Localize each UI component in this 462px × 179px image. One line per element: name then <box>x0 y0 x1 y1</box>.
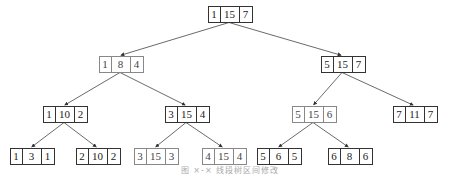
tree-node: 1102 <box>43 106 88 123</box>
tree-node: 184 <box>99 56 144 73</box>
tree-node: 5157 <box>321 56 366 73</box>
node-right-value: 4 <box>197 107 209 122</box>
node-left-value: 1 <box>11 149 23 164</box>
node-mid-value: 15 <box>215 149 234 164</box>
node-right-value: 4 <box>131 57 143 72</box>
tree-edge <box>342 73 413 106</box>
tree-edge <box>32 123 64 147</box>
node-left-value: 1 <box>44 107 56 122</box>
node-mid-value: 15 <box>334 57 353 72</box>
tree-edge <box>186 123 222 147</box>
tree-node: 1157 <box>208 6 253 23</box>
node-left-value: 6 <box>329 149 341 164</box>
tree-edge <box>121 23 229 56</box>
node-right-value: 6 <box>360 149 372 164</box>
tree-edge <box>314 73 342 105</box>
node-mid-value: 8 <box>341 149 360 164</box>
node-right-value: 3 <box>166 149 178 164</box>
tree-edge <box>313 123 348 147</box>
tree-node: 2102 <box>76 148 121 165</box>
node-mid-value: 10 <box>89 149 108 164</box>
tree-edge <box>229 23 341 56</box>
node-mid-value: 10 <box>56 107 75 122</box>
node-left-value: 7 <box>394 107 406 122</box>
tree-node: 3153 <box>134 148 179 165</box>
tree-node: 4154 <box>202 148 247 165</box>
tree-edge <box>64 123 96 147</box>
node-mid-value: 15 <box>147 149 166 164</box>
node-right-value: 5 <box>289 149 301 164</box>
tree-edge <box>120 73 185 106</box>
node-mid-value: 15 <box>178 107 197 122</box>
node-mid-value: 11 <box>406 107 425 122</box>
node-left-value: 3 <box>135 149 147 164</box>
node-right-value: 6 <box>324 107 336 122</box>
node-mid-value: 8 <box>112 57 131 72</box>
figure-caption: 图 ×-× 线段树区间修改 <box>150 164 310 175</box>
node-mid-value: 3 <box>23 149 42 164</box>
node-right-value: 1 <box>42 149 54 164</box>
tree-node: 3154 <box>165 106 210 123</box>
tree-edge <box>279 123 313 147</box>
node-left-value: 3 <box>166 107 178 122</box>
node-right-value: 2 <box>108 149 120 164</box>
tree-node: 5156 <box>292 106 337 123</box>
tree-edge <box>65 73 120 105</box>
tree-node: 131 <box>10 148 55 165</box>
node-left-value: 2 <box>77 149 89 164</box>
node-left-value: 1 <box>209 7 221 22</box>
node-left-value: 5 <box>293 107 305 122</box>
node-left-value: 5 <box>322 57 334 72</box>
tree-edge <box>156 123 186 147</box>
node-mid-value: 6 <box>270 149 289 164</box>
tree-node: 565 <box>257 148 302 165</box>
node-left-value: 1 <box>100 57 112 72</box>
tree-node: 7117 <box>393 106 438 123</box>
node-right-value: 7 <box>425 107 437 122</box>
node-left-value: 4 <box>203 149 215 164</box>
node-right-value: 7 <box>353 57 365 72</box>
node-mid-value: 15 <box>221 7 240 22</box>
node-left-value: 5 <box>258 149 270 164</box>
node-right-value: 2 <box>75 107 87 122</box>
node-mid-value: 15 <box>305 107 324 122</box>
node-right-value: 4 <box>234 149 246 164</box>
tree-node: 686 <box>328 148 373 165</box>
node-right-value: 7 <box>240 7 252 22</box>
